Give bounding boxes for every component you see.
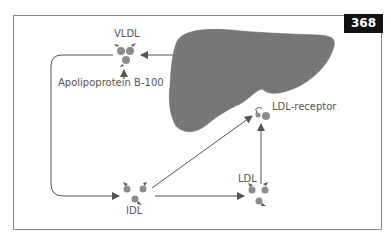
- vldl-label: VLDL: [114, 28, 140, 39]
- apolipoprotein-label: Apolipoprotein B-100: [58, 77, 164, 88]
- lipoprotein-diagram: [0, 0, 391, 236]
- ldl-particle-icon: [248, 182, 269, 206]
- vldl-particle-icon: [114, 43, 136, 67]
- ldl-label: LDL: [238, 173, 257, 184]
- idl-particle-icon: [123, 182, 147, 205]
- ldl-receptor-label: LDL-receptor: [272, 101, 336, 112]
- idl-label: IDL: [126, 205, 142, 216]
- ldl-receptor-icon: [255, 107, 270, 120]
